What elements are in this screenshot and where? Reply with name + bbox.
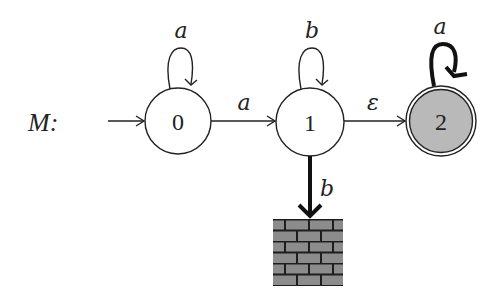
transition-0-1-label: a (237, 90, 250, 115)
transition-0-0-loop: a (168, 18, 197, 89)
transition-1-2-label: ε (367, 90, 379, 115)
state-1-label: 1 (304, 110, 316, 136)
state-0-label: 0 (172, 109, 184, 135)
state-2-accepting[interactable]: 2 (406, 86, 476, 156)
transition-1-dead: b (299, 156, 334, 216)
start-arrow (108, 116, 144, 126)
state-2-label: 2 (435, 109, 447, 135)
state-0[interactable]: 0 (145, 88, 211, 154)
transition-0-0-label: a (174, 18, 187, 43)
transition-2-2-loop: a (431, 14, 467, 86)
machine-label: M: (27, 108, 58, 137)
transition-1-1-loop: b (299, 18, 328, 89)
brick-wall-icon (273, 219, 343, 286)
transition-1-dead-label: b (320, 176, 334, 201)
transition-0-1: a (211, 90, 275, 126)
transition-2-2-label: a (433, 14, 446, 39)
transition-1-1-label: b (305, 18, 319, 43)
automaton-diagram: M: 0 a a 1 b ε 2 (0, 0, 497, 298)
state-1[interactable]: 1 (276, 88, 344, 156)
transition-1-2: ε (344, 90, 405, 126)
